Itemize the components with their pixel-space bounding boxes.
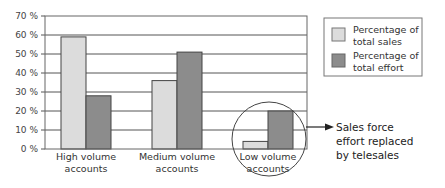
arrow-head-icon bbox=[325, 124, 334, 131]
y-tick-label: 20 % bbox=[15, 106, 38, 116]
legend-swatch-effort bbox=[332, 54, 345, 67]
y-tick-label: 50 % bbox=[15, 49, 38, 59]
category-label: High volume bbox=[56, 151, 116, 162]
legend-label-effort-2: total effort bbox=[353, 62, 404, 73]
bar-effort bbox=[268, 111, 293, 149]
bar-sales bbox=[61, 37, 86, 149]
y-axis-ticks: 0 %10 %20 %30 %40 %50 %60 %70 % bbox=[15, 11, 45, 154]
y-tick-label: 40 % bbox=[15, 68, 38, 78]
category-label: Low volume bbox=[240, 151, 297, 162]
legend-label-sales-2: total sales bbox=[353, 36, 402, 47]
y-tick-label: 60 % bbox=[15, 30, 38, 40]
annotation-line-1: Sales force bbox=[336, 121, 394, 133]
annotation-line-3: by telesales bbox=[336, 149, 399, 161]
legend-label-effort-1: Percentage of bbox=[353, 50, 419, 61]
y-tick-label: 10 % bbox=[15, 125, 38, 135]
y-tick-label: 30 % bbox=[15, 87, 38, 97]
annotation-line-2: effort replaced bbox=[336, 135, 413, 147]
y-tick-label: 70 % bbox=[15, 11, 38, 21]
legend-label-sales-1: Percentage of bbox=[353, 24, 419, 35]
category-label: accounts bbox=[156, 163, 199, 174]
legend: Percentage of total sales Percentage of … bbox=[324, 18, 422, 76]
bar-effort bbox=[177, 52, 202, 149]
bar-sales bbox=[243, 141, 268, 149]
bar-chart: 0 %10 %20 %30 %40 %50 %60 %70 % High vol… bbox=[0, 0, 445, 188]
legend-swatch-sales bbox=[332, 28, 345, 41]
category-label: Medium volume bbox=[139, 151, 215, 162]
category-label: accounts bbox=[65, 163, 108, 174]
category-labels: High volumeaccountsMedium volumeaccounts… bbox=[56, 151, 297, 174]
bar-sales bbox=[152, 81, 177, 149]
bar-effort bbox=[86, 96, 111, 149]
y-tick-label: 0 % bbox=[21, 144, 39, 154]
